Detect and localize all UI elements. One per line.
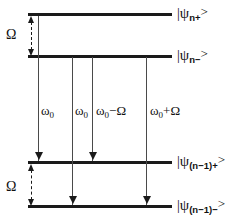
transition-label-t4: ω0+Ω	[150, 104, 180, 120]
transition-omega-t3: ω	[96, 103, 105, 118]
state-psi-n-minus: ψ	[180, 47, 189, 63]
level-line-n1-plus	[28, 161, 172, 164]
transition-sub-t2: 0	[84, 110, 89, 120]
transition-shaft-t3	[92, 57, 93, 161]
level-line-n-minus	[28, 55, 172, 58]
transition-suffix-t3: −Ω	[109, 103, 126, 118]
state-ket-n-plus: >	[201, 4, 208, 19]
transition-sub-t1: 0	[50, 110, 55, 120]
transition-suffix-t4: +Ω	[163, 103, 180, 118]
transition-arrowhead-t4	[143, 196, 151, 204]
state-sub-n1-minus: (n−1)−	[189, 204, 218, 215]
transition-label-t2: ω0	[75, 104, 88, 120]
transition-shaft-t1	[38, 16, 39, 161]
lower-omega-label: Ω	[6, 180, 16, 194]
transition-omega-t1: ω	[41, 103, 50, 118]
state-psi-n1-minus: ψ	[180, 197, 189, 213]
upper-omega-shaft	[31, 22, 32, 50]
upper-omega-arrowhead-down	[28, 49, 34, 56]
upper-omega-label: Ω	[6, 28, 16, 42]
level-line-n-plus	[28, 13, 172, 16]
state-ket-n1-minus: >	[218, 196, 225, 211]
transition-shaft-t4	[146, 57, 147, 205]
transition-omega-t2: ω	[75, 103, 84, 118]
lower-omega-shaft	[31, 170, 32, 200]
state-sub-n-plus: n+	[189, 12, 200, 23]
state-label-n-plus: |ψn+>	[177, 5, 208, 23]
state-sub-n1-plus: (n−1)+	[189, 160, 218, 171]
transition-shaft-t2	[72, 57, 73, 205]
transition-arrowhead-t3	[89, 152, 97, 160]
level-line-n1-minus	[28, 205, 172, 208]
lower-omega-arrowhead-down	[28, 199, 34, 206]
energy-level-diagram: Ω Ω ω0 ω0 ω0−Ω ω0+Ω |ψn+> |ψn−> |ψ(n−1)+…	[0, 0, 244, 224]
state-ket-n-minus: >	[201, 46, 208, 61]
state-label-n1-plus: |ψ(n−1)+>	[177, 153, 225, 171]
transition-label-t3: ω0−Ω	[96, 104, 126, 120]
transition-omega-t4: ω	[150, 103, 159, 118]
transition-arrowhead-t2	[69, 196, 77, 204]
state-ket-n1-plus: >	[218, 152, 225, 167]
transition-arrowhead-t1	[35, 152, 43, 160]
state-label-n-minus: |ψn−>	[177, 47, 208, 65]
state-psi-n1-plus: ψ	[180, 153, 189, 169]
state-sub-n-minus: n−	[189, 54, 200, 65]
transition-label-t1: ω0	[41, 104, 54, 120]
state-label-n1-minus: |ψ(n−1)−>	[177, 197, 225, 215]
state-psi-n-plus: ψ	[180, 5, 189, 21]
